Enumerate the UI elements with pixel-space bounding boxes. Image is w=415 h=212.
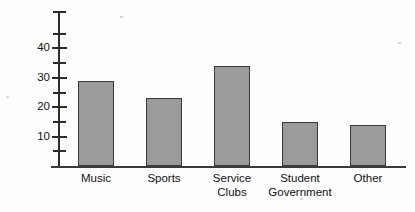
- scan-speckle: [398, 42, 401, 44]
- scan-speckle: [6, 96, 9, 98]
- y-axis-top-tick: [53, 11, 66, 13]
- y-axis-tick-label: 30: [24, 71, 50, 83]
- y-axis-tick-label: 20: [24, 100, 50, 112]
- bar-service-clubs: [214, 66, 250, 166]
- scan-speckle: [300, 198, 303, 200]
- y-axis-tick-label-wrap: 10: [18, 130, 50, 144]
- y-axis-tick-label-wrap: 30: [18, 71, 50, 85]
- bar-sports: [146, 98, 182, 166]
- y-axis-tick-label: 40: [24, 41, 50, 53]
- y-axis-major-tick: [52, 77, 67, 79]
- y-axis-minor-tick: [53, 121, 66, 123]
- scan-speckle: [120, 16, 123, 18]
- y-axis-major-tick: [52, 47, 67, 49]
- y-axis-major-tick: [52, 136, 67, 138]
- x-axis-line: [51, 166, 406, 168]
- y-axis-tick-label: 10: [24, 130, 50, 142]
- y-axis-minor-tick: [53, 33, 66, 35]
- y-axis-tick-label-wrap: 40: [18, 41, 50, 55]
- y-axis-tick-label-wrap: 20: [18, 100, 50, 114]
- x-axis-label-other: Other: [326, 171, 410, 185]
- plot-area: 10203040 MusicSportsService ClubsStudent…: [0, 0, 415, 212]
- y-axis-minor-tick: [53, 92, 66, 94]
- bar-student-government: [282, 122, 318, 166]
- bar-chart-screenshot: Number of Students 10203040 MusicSportsS…: [0, 0, 415, 212]
- y-axis-minor-tick: [53, 150, 66, 152]
- bar-music: [78, 81, 114, 166]
- y-axis-minor-tick: [53, 62, 66, 64]
- bar-other: [350, 125, 386, 166]
- y-axis-major-tick: [52, 106, 67, 108]
